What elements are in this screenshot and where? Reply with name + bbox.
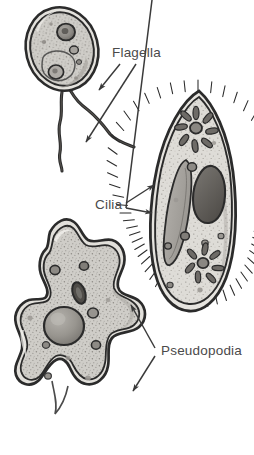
flagellate-granule-b xyxy=(76,60,81,65)
amoeba-food-vacuole-b xyxy=(79,262,88,270)
label-flagella: Flagella xyxy=(112,45,161,60)
amoeba-food-vacuole-a xyxy=(50,265,60,274)
paramecium-food-vacuole-b xyxy=(181,232,190,240)
amoeba-food-vacuole-d xyxy=(88,308,99,318)
amoeba-food-vacuole-c xyxy=(91,341,100,349)
figure-canvas: Flagella Cilia Pseudopodia xyxy=(0,0,254,455)
label-cilia: Cilia xyxy=(95,197,123,212)
amoeba-food-vacuole-e xyxy=(42,342,49,349)
label-pseudopodia: Pseudopodia xyxy=(161,343,242,358)
paramecium-contractile-vacuole-upper xyxy=(174,106,219,152)
flagellate-granule-a xyxy=(70,46,79,54)
paramecium-food-vacuole-c xyxy=(165,243,172,249)
amoeba-nucleus xyxy=(44,307,84,345)
paramecium-food-vacuole-a xyxy=(187,163,196,171)
protist-illustration: Flagella Cilia Pseudopodia xyxy=(0,0,254,455)
